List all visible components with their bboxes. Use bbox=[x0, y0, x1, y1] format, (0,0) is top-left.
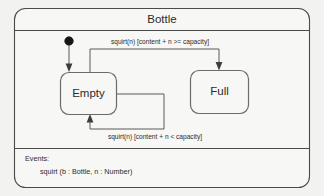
state-diagram: Bottle squirt(n) [content + n >= capacit… bbox=[0, 0, 324, 196]
diagram-title: Bottle bbox=[147, 13, 176, 25]
edge-label-empty-to-full: squirt(n) [content + n >= capacity] bbox=[111, 38, 209, 46]
state-empty-label: Empty bbox=[72, 87, 105, 99]
edge-label-empty-to-empty: squirt(n) [content + n < capacity] bbox=[108, 133, 202, 141]
events-heading: Events: bbox=[25, 154, 49, 163]
diagram-frame bbox=[15, 9, 310, 188]
initial-state-marker bbox=[65, 37, 74, 46]
diagram-canvas: Bottle squirt(n) [content + n >= capacit… bbox=[0, 0, 324, 196]
state-full-label: Full bbox=[210, 85, 229, 97]
events-item: squirt (b : Bottle, n : Number) bbox=[40, 167, 132, 176]
